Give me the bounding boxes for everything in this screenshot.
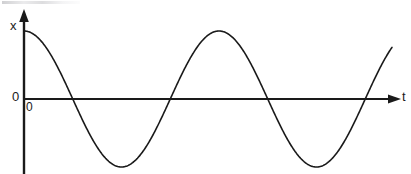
graph-figure: x 0 0 t — [0, 0, 411, 174]
origin-label-left: 0 — [12, 90, 19, 103]
origin-label-below: 0 — [26, 101, 33, 113]
y-axis-label: x — [10, 19, 17, 32]
x-axis-arrowhead — [388, 94, 401, 103]
x-axis-label: t — [402, 90, 406, 103]
plot-canvas — [0, 0, 411, 174]
y-axis-arrowhead — [19, 9, 29, 22]
